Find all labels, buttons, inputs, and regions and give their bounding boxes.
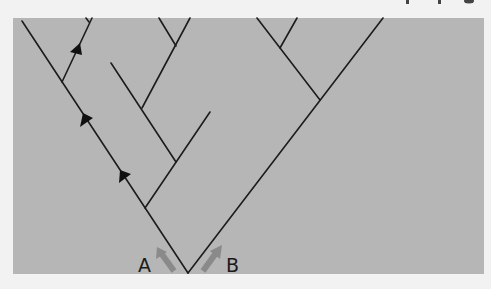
phylogenetic-tree-diagram: A B — [0, 0, 491, 289]
diagram-panel — [13, 18, 484, 274]
label-a: A — [138, 254, 151, 276]
cropped-caption-fragments — [406, 0, 474, 4]
label-b: B — [226, 254, 239, 276]
